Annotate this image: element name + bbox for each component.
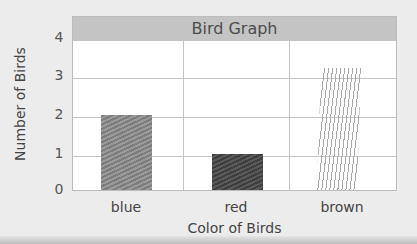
y-tick-1: 1: [52, 145, 66, 161]
plot-area: Bird Graph: [72, 16, 397, 191]
y-axis-label: Number of Birds: [12, 47, 28, 161]
page-bottom-shadow: [0, 236, 417, 244]
y-tick-0: 0: [52, 181, 66, 197]
y-tick-3: 3: [52, 67, 66, 83]
column-divider-1: [183, 41, 184, 190]
bar-brown: [317, 68, 361, 190]
y-tick-2: 2: [52, 106, 66, 122]
column-divider-2: [289, 41, 290, 190]
bar-red: [212, 154, 263, 190]
chart-title: Bird Graph: [73, 17, 396, 41]
x-tick-brown: brown: [302, 199, 382, 215]
x-tick-red: red: [196, 199, 276, 215]
x-tick-blue: blue: [86, 199, 166, 215]
bar-blue: [101, 115, 152, 190]
x-axis-label: Color of Birds: [0, 220, 417, 236]
y-tick-4: 4: [52, 29, 66, 45]
